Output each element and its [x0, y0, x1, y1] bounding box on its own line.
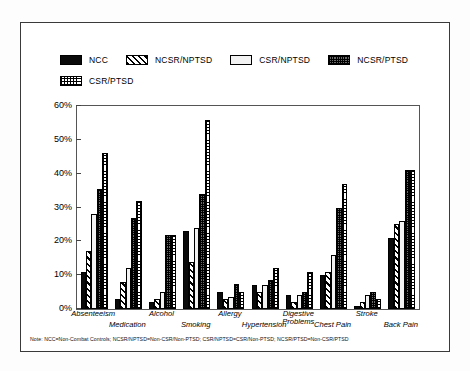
bar-group [77, 106, 111, 309]
chart-footnote: Note: NCC=Non-Combat Controls; NCSR/NPTS… [30, 336, 442, 342]
bar-group [351, 106, 385, 309]
bar-group [145, 106, 179, 309]
x-tick-label: Alcohol [149, 310, 174, 318]
legend-label-ncsr-ptsd: NCSR/PTSD [357, 55, 408, 65]
bar [273, 268, 278, 309]
bar-group [316, 106, 350, 309]
bar-group [248, 106, 282, 309]
bar [205, 120, 210, 309]
bar [171, 235, 176, 309]
y-tick-mark [76, 274, 81, 275]
bar [410, 170, 415, 309]
x-tick-label: Medication [109, 321, 146, 329]
legend-item-ncsr-ptsd: NCSR/PTSD [328, 55, 408, 65]
legend-label-ncc: NCC [89, 55, 108, 65]
y-tick-label: 30% [54, 202, 72, 212]
x-tick-label: DigestiveProblems [282, 310, 314, 327]
bar-group [214, 106, 248, 309]
legend-item-ncc: NCC [60, 55, 108, 65]
legend-row-1: NCC NCSR/NPTSD CSR/NPTSD NCSR/PTSD [60, 52, 430, 68]
x-tick-label: Allergy [218, 310, 241, 318]
bar-group [180, 106, 214, 309]
y-tick-mark [76, 173, 81, 174]
legend-swatch-ncc [60, 55, 82, 65]
x-tick-label: Stroke [356, 310, 378, 318]
legend-item-ncsr-nptsd: NCSR/NPTSD [126, 55, 212, 65]
y-tick-mark [76, 105, 81, 106]
y-tick-mark [76, 240, 81, 241]
chart-legend: NCC NCSR/NPTSD CSR/NPTSD NCSR/PTSD CSR/P… [60, 52, 430, 94]
legend-swatch-ncsr-ptsd [328, 55, 350, 65]
chart-page: NCC NCSR/NPTSD CSR/NPTSD NCSR/PTSD CSR/P… [0, 0, 470, 371]
y-tick-label: 10% [54, 269, 72, 279]
legend-item-csr-nptsd: CSR/NPTSD [230, 55, 310, 65]
bar [136, 201, 141, 309]
plot-area [76, 105, 420, 310]
x-tick-label: Hypertension [242, 321, 287, 329]
bar [376, 299, 381, 309]
y-tick-label: 60% [54, 100, 72, 110]
x-tick-label: Back Pain [384, 321, 418, 329]
legend-swatch-csr-nptsd [230, 55, 252, 65]
bar [239, 292, 244, 309]
x-tick-label: Absenteeism [71, 310, 115, 318]
y-tick-label: 40% [54, 168, 72, 178]
bar [342, 184, 347, 309]
bar-group [385, 106, 419, 309]
legend-label-csr-nptsd: CSR/NPTSD [259, 55, 310, 65]
bar [102, 153, 107, 309]
x-tick-label: Chest Pain [314, 321, 351, 329]
y-axis: 0%10%20%30%40%50%60% [36, 99, 72, 315]
legend-label-ncsr-nptsd: NCSR/NPTSD [155, 55, 212, 65]
legend-label-csr-ptsd: CSR/PTSD [89, 76, 134, 86]
bars-container [77, 106, 419, 309]
bar [307, 272, 312, 309]
y-tick-mark [76, 139, 81, 140]
legend-row-2: CSR/PTSD [60, 73, 430, 89]
y-tick-label: 20% [54, 235, 72, 245]
y-tick-label: 50% [54, 134, 72, 144]
legend-swatch-ncsr-nptsd [126, 55, 148, 65]
legend-swatch-csr-ptsd [60, 76, 82, 86]
y-tick-mark [76, 207, 81, 208]
y-tick-mark [76, 308, 81, 309]
y-tick-label: 0% [59, 303, 72, 313]
x-tick-label: Smoking [181, 321, 211, 329]
bar-group [111, 106, 145, 309]
bar-group [282, 106, 316, 309]
legend-item-csr-ptsd: CSR/PTSD [60, 76, 134, 86]
